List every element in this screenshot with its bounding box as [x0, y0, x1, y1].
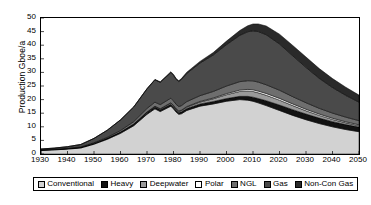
x-tick-2000: 2000: [217, 155, 235, 165]
y-tick-15: 15: [27, 108, 36, 116]
x-axis-tick-labels: 1930194019501960197019801990200020102020…: [40, 155, 358, 169]
x-tick-2030: 2030: [296, 155, 314, 165]
x-tick-1990: 1990: [190, 155, 208, 165]
legend-label: Polar: [205, 180, 224, 188]
y-tick-45: 45: [27, 27, 36, 35]
y-tick-5: 5: [32, 135, 36, 143]
legend-item-conventional[interactable]: Conventional: [38, 180, 94, 188]
x-tick-2050: 2050: [349, 155, 367, 165]
legend-label: Non-Con Gas: [304, 180, 353, 188]
y-tick-25: 25: [27, 81, 36, 89]
x-tick-1950: 1950: [84, 155, 102, 165]
legend-swatch-icon: [264, 181, 271, 188]
x-tick-1960: 1960: [111, 155, 129, 165]
plot-area: [40, 17, 360, 155]
legend-item-gas[interactable]: Gas: [264, 180, 288, 188]
x-tick-1940: 1940: [58, 155, 76, 165]
stacked-area-series-group: [41, 18, 359, 154]
legend-item-polar[interactable]: Polar: [195, 180, 223, 188]
legend-swatch-icon: [101, 181, 108, 188]
y-tick-50: 50: [27, 13, 36, 21]
legend-swatch-icon: [38, 181, 45, 188]
legend-swatch-icon: [195, 181, 202, 188]
legend-label: NGL: [240, 180, 256, 188]
y-tick-20: 20: [27, 95, 36, 103]
x-tick-1930: 1930: [31, 155, 49, 165]
legend-label: Deepwater: [150, 180, 189, 188]
y-tick-40: 40: [27, 40, 36, 48]
legend-item-deepwater[interactable]: Deepwater: [140, 180, 188, 188]
x-tick-1970: 1970: [137, 155, 155, 165]
legend-label: Heavy: [111, 180, 134, 188]
legend-item-non-con-gas[interactable]: Non-Con Gas: [295, 180, 353, 188]
legend-label: Conventional: [47, 180, 94, 188]
y-tick-35: 35: [27, 54, 36, 62]
legend-item-heavy[interactable]: Heavy: [101, 180, 133, 188]
legend-item-ngl[interactable]: NGL: [231, 180, 257, 188]
x-tick-1980: 1980: [164, 155, 182, 165]
y-axis-tick-labels: 05101520253035404550: [14, 13, 36, 153]
y-tick-30: 30: [27, 67, 36, 75]
legend-swatch-icon: [231, 181, 238, 188]
legend-swatch-icon: [295, 181, 302, 188]
y-tick-10: 10: [27, 122, 36, 130]
production-area-chart: Production Gboe/a 05101520253035404550 1…: [0, 0, 371, 205]
x-tick-2020: 2020: [270, 155, 288, 165]
legend-label: Gas: [273, 180, 288, 188]
x-tick-2010: 2010: [243, 155, 261, 165]
x-tick-2040: 2040: [323, 155, 341, 165]
legend-swatch-icon: [140, 181, 147, 188]
chart-legend: ConventionalHeavyDeepwaterPolarNGLGasNon…: [33, 177, 358, 191]
